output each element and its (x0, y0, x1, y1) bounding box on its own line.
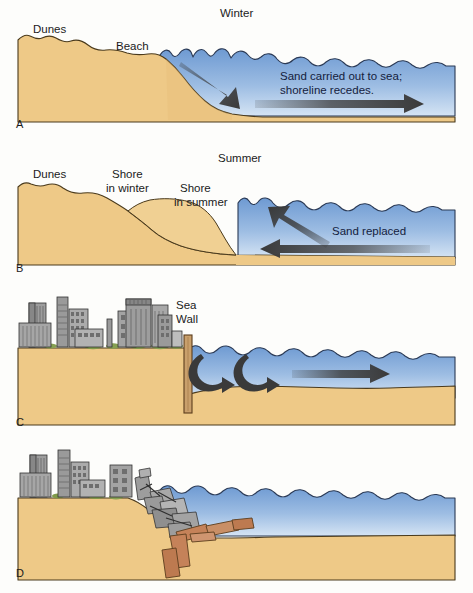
panel-c-seawall-line1: Sea (176, 299, 196, 312)
panel-b-shore-summer-line1: Shore (180, 182, 211, 195)
panel-b-shore-winter-line1: Shore (112, 168, 143, 181)
panel-a-season-label: Winter (220, 7, 253, 20)
panel-letter-a: A (16, 118, 24, 130)
panel-a-callout-line2: shoreline recedes. (280, 84, 374, 97)
panel-a-beach-label: Beach (116, 40, 149, 53)
panel-letter-d: D (16, 567, 24, 579)
panel-c-seawall: Sea Wall (0, 285, 473, 440)
panel-c-seawall-line2: Wall (176, 313, 198, 326)
coastal-erosion-figure: Winter Dunes Beach Sand carried out to s… (0, 0, 473, 593)
city-skyline-d (20, 450, 132, 497)
panel-b-callout: Sand replaced (332, 225, 406, 238)
panel-a-dunes-label: Dunes (33, 23, 66, 36)
panel-b-season-label: Summer (218, 152, 261, 165)
panel-d-collapse (0, 440, 473, 593)
panel-a-winter: Winter Dunes Beach Sand carried out to s… (0, 0, 473, 145)
panel-b-shore-winter-line2: in winter (106, 182, 149, 195)
panel-letter-c: C (16, 416, 24, 428)
panel-b-shore-summer-line2: in summer (174, 196, 228, 209)
panel-letter-b: B (16, 262, 24, 274)
panel-b-summer: Summer Dunes Shore in winter Shore in su… (0, 145, 473, 285)
panel-b-dunes-label: Dunes (33, 168, 66, 181)
city-skyline-c (19, 297, 182, 347)
panel-a-callout-line1: Sand carried out to sea; (280, 70, 402, 83)
